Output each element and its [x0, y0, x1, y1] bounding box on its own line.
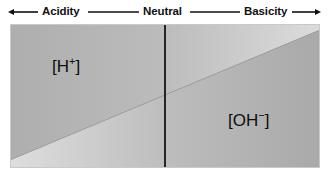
- axis-label-acidity: Acidity: [42, 4, 80, 18]
- oh-minus-label: [OH−]: [228, 112, 269, 130]
- oh-minus-bracket-open: [OH: [228, 111, 258, 130]
- concentration-diagram: [10, 24, 320, 168]
- ph-scale-figure: Acidity Neutral Basicity: [0, 0, 329, 173]
- concentration-graphic: [10, 24, 320, 168]
- h-plus-bracket-close: ]: [75, 57, 80, 76]
- oh-minus-bracket-close: ]: [265, 111, 270, 130]
- axis-label-neutral: Neutral: [143, 4, 182, 18]
- h-plus-bracket-open: [H: [52, 57, 69, 76]
- h-plus-label: [H+]: [52, 58, 80, 76]
- axis-label-basicity: Basicity: [244, 4, 287, 18]
- axis-bar: Acidity Neutral Basicity: [0, 0, 329, 24]
